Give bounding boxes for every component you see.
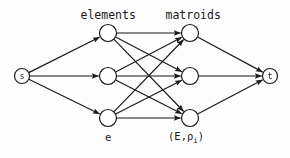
edge-s-to-e3: [29, 80, 99, 114]
node-e3: [100, 110, 117, 127]
node-m2: [182, 68, 199, 85]
column-title-elements: elements: [81, 10, 136, 22]
network-diagram-canvas: st: [0, 0, 290, 158]
caption-close-paren: ): [198, 130, 204, 142]
node-m1: [182, 25, 199, 42]
node-circle-e1: [100, 25, 117, 42]
edge-m1-to-t: [198, 37, 262, 72]
figure-flow-network: st elements matroids e (E,ρi): [0, 0, 290, 158]
node-label-t: t: [267, 71, 272, 81]
node-label-s: s: [19, 71, 24, 81]
node-t: t: [263, 69, 278, 84]
edge-m3-to-t: [198, 80, 262, 114]
caption-matroid-tuple: (E,ρi): [168, 131, 204, 144]
node-circle-m1: [182, 25, 199, 42]
edge-s-to-e1: [29, 37, 99, 72]
node-circle-m2: [182, 68, 199, 85]
caption-element-e: e: [105, 132, 111, 143]
node-circle-e2: [100, 68, 117, 85]
node-m3: [182, 110, 199, 127]
edge-layer: [29, 33, 262, 118]
caption-open-paren: (E,: [168, 130, 187, 142]
node-circle-e3: [100, 110, 117, 127]
node-circle-m3: [182, 110, 199, 127]
node-s: s: [15, 69, 30, 84]
column-title-matroids: matroids: [166, 10, 221, 22]
node-e2: [100, 68, 117, 85]
node-e1: [100, 25, 117, 42]
